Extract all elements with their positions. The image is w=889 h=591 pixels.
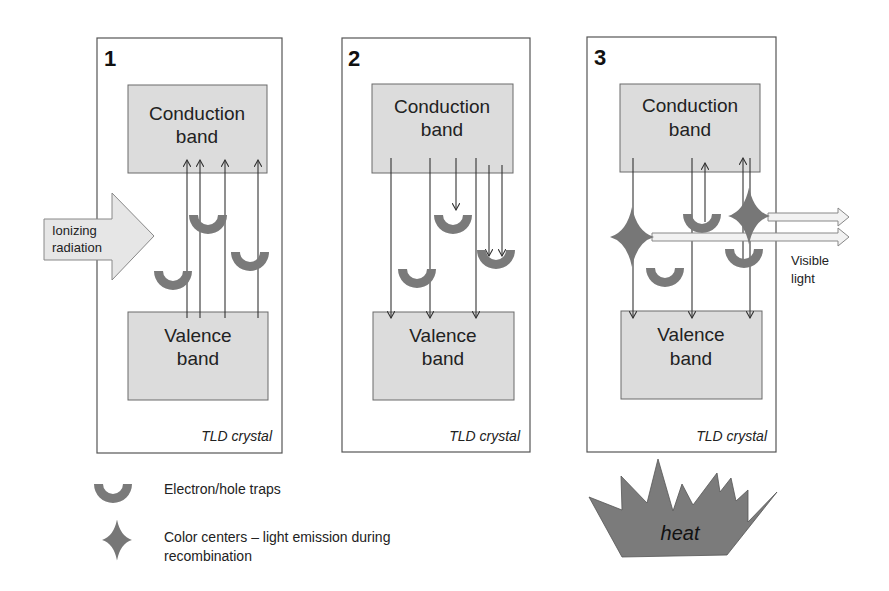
panel-2: 2 Conduction band Valence band TLD cryst…: [342, 38, 530, 452]
legend: Electron/hole traps Color centers – ligh…: [94, 481, 390, 564]
panel-1-number: 1: [104, 46, 116, 71]
conduction-band-3-label-line1: Conduction: [642, 95, 738, 116]
conduction-band-3-label-line2: band: [669, 119, 711, 140]
conduction-band-1-label-line1: Conduction: [149, 103, 245, 124]
legend-color-center-icon: [102, 520, 132, 561]
valence-band-1-label-line1: Valence: [164, 325, 231, 346]
heat-label: heat: [661, 522, 701, 544]
valence-band-3-label-line2: band: [670, 348, 712, 369]
valence-band-2-label-line1: Valence: [409, 325, 476, 346]
panel-2-number: 2: [348, 46, 360, 71]
conduction-band-1-label-line2: band: [176, 126, 218, 147]
tld-diagram: 1 Conduction band Valence band TLD cryst…: [0, 0, 889, 591]
valence-band-1-label-line2: band: [177, 348, 219, 369]
ionizing-label-line1: Ionizing: [52, 223, 97, 238]
visible-light-label-line1: Visible: [791, 253, 829, 268]
legend-traps-label: Electron/hole traps: [164, 481, 281, 497]
panel-3: 3 Conduction band Valence band Visible l…: [587, 37, 849, 452]
visible-light-label-line2: light: [791, 271, 815, 286]
valence-band-3-label-line1: Valence: [657, 324, 724, 345]
panel-1-crystal-label: TLD crystal: [201, 428, 273, 444]
conduction-band-2-label-line2: band: [421, 119, 463, 140]
legend-trap-icon: [94, 484, 132, 503]
heat-shape: heat: [589, 459, 777, 557]
valence-band-2-label-line2: band: [422, 348, 464, 369]
panel-2-crystal-label: TLD crystal: [449, 428, 521, 444]
panel-3-number: 3: [594, 45, 606, 70]
legend-color-centers-line2: recombination: [164, 548, 252, 564]
legend-color-centers-line1: Color centers – light emission during: [164, 529, 390, 545]
panel-3-crystal-label: TLD crystal: [696, 428, 768, 444]
ionizing-label-line2: radiation: [52, 240, 102, 255]
light-emission-arrow: [768, 208, 849, 226]
conduction-band-2-label-line1: Conduction: [394, 96, 490, 117]
